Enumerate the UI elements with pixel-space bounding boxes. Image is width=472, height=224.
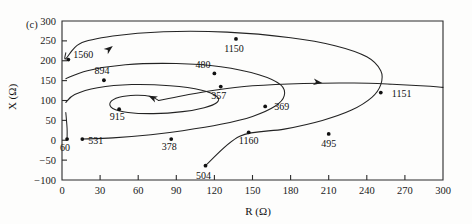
arrow-outer-icon (104, 43, 115, 54)
y-tick-label: 0 (51, 135, 56, 146)
data-point-label: 378 (162, 141, 177, 152)
data-point-marker (379, 91, 383, 95)
x-tick-label: 60 (133, 185, 144, 196)
y-tick-label: 200 (40, 55, 56, 66)
curve-leader-60 (66, 112, 67, 139)
data-point-marker (327, 132, 331, 136)
arrow-tail-icon (313, 78, 323, 86)
data-point-marker (80, 137, 84, 141)
x-tick-label: 180 (283, 185, 299, 196)
x-tick-label: 240 (359, 185, 375, 196)
y-tick-label: 250 (40, 35, 56, 46)
data-point-label: 531 (88, 135, 103, 146)
data-point-label: 357 (211, 90, 226, 101)
data-point-label: 369 (274, 101, 289, 112)
x-axis-title: R (Ω) (245, 205, 271, 218)
data-point-marker (204, 164, 208, 168)
y-tick-label: −50 (40, 155, 56, 166)
x-axis-ticks: 0306090120150180210240270300 (59, 175, 451, 196)
data-point-label: 495 (321, 138, 336, 149)
data-point-label: 1150 (224, 43, 244, 54)
x-tick-label: 30 (95, 185, 106, 196)
y-axis-title: X (Ω) (6, 84, 19, 111)
data-point-label: 504 (196, 170, 211, 181)
panel-label: (c) (26, 19, 38, 31)
x-tick-label: 0 (59, 185, 64, 196)
y-tick-label: 100 (40, 95, 56, 106)
data-point-label: 1151 (392, 88, 412, 99)
x-tick-label: 210 (321, 185, 337, 196)
x-tick-label: 120 (207, 185, 223, 196)
x-tick-label: 150 (245, 185, 261, 196)
data-point-label: 1560 (73, 49, 93, 60)
curve-spiral-inner (66, 85, 219, 114)
arrow-inner-icon (147, 93, 158, 103)
y-axis-ticks: −100−50050100150200250300 (34, 16, 67, 186)
data-point-marker (247, 130, 251, 134)
x-tick-label: 270 (397, 185, 413, 196)
data-point-marker (234, 37, 238, 41)
data-point-marker (213, 72, 217, 76)
y-tick-label: 150 (40, 75, 56, 86)
data-point-label: 894 (94, 65, 109, 76)
figure-panel: (c) 0306090120150180210240270300 −100−50… (0, 0, 472, 224)
y-tick-label: −100 (34, 175, 56, 186)
data-point-label: 915 (110, 111, 125, 122)
data-point-label: 1160 (239, 135, 259, 146)
data-point-marker (65, 137, 69, 141)
y-tick-label: 50 (46, 115, 57, 126)
impedance-locus-chart: (c) 0306090120150180210240270300 −100−50… (0, 0, 472, 224)
y-tick-label: 300 (40, 16, 56, 27)
data-point-label: 480 (195, 59, 210, 70)
data-point-label: 60 (60, 142, 70, 153)
axis-frame (62, 21, 443, 180)
data-point-marker (263, 105, 267, 109)
data-point-marker (219, 85, 223, 89)
data-point-marker (102, 78, 106, 82)
x-tick-label: 300 (435, 185, 451, 196)
x-tick-label: 90 (171, 185, 182, 196)
data-point-marker (66, 58, 70, 62)
